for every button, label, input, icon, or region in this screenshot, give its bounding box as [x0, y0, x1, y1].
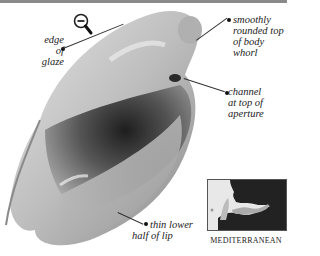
label-line: channel: [228, 86, 264, 97]
label-line: half of lip: [132, 230, 193, 241]
label-line: rounded top: [233, 25, 284, 36]
label-line: glaze: [34, 56, 64, 67]
label-line: at top of: [228, 97, 264, 108]
label-thin-lower-lip: thin lower half of lip: [132, 219, 193, 241]
zoom-out-magnifier-icon[interactable]: [72, 12, 94, 36]
label-smoothly-rounded-top: smoothly rounded top of body whorl: [233, 14, 284, 58]
map-caption: MEDITERRANEAN: [205, 236, 287, 245]
label-line: thin lower: [132, 219, 193, 230]
label-channel: channel at top of aperture: [228, 86, 264, 119]
label-dot: [227, 18, 231, 22]
distribution-map: [207, 179, 287, 231]
label-line: smoothly: [233, 14, 284, 25]
label-line: of body: [233, 36, 284, 47]
label-line: aperture: [228, 108, 264, 119]
label-line: edge of: [34, 34, 64, 56]
label-line: whorl: [233, 47, 284, 58]
map-graphic: [208, 180, 286, 230]
label-edge-of-glaze: edge of glaze: [34, 34, 64, 67]
